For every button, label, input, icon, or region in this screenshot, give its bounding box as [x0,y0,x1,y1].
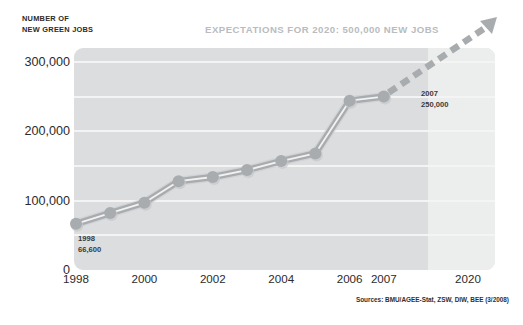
data-point-marker [104,207,116,219]
data-label-1998: 1998 66,600 [78,233,101,255]
data-point-marker [378,91,390,103]
series-line [76,97,384,224]
data-point-marker [241,164,253,176]
data-label-2007: 2007 250,000 [421,88,448,110]
data-point-marker [309,147,321,159]
data-point-marker [207,171,219,183]
series-layer [0,0,523,325]
chart-container: NUMBER OF NEW GREEN JOBS EXPECTATIONS FO… [0,0,523,325]
data-label-1998-value: 66,600 [78,244,101,255]
data-label-2007-value: 250,000 [421,99,448,110]
data-label-2007-year: 2007 [421,88,448,99]
data-point-marker [275,155,287,167]
projection-arrow-line [389,26,488,93]
sources-note: Sources: BMU/AGEE-Stat, ZSW, DIW, BEE (3… [356,296,509,303]
data-label-1998-year: 1998 [78,233,101,244]
data-point-marker [173,175,185,187]
data-point-marker [138,197,150,209]
data-point-marker [70,218,82,230]
data-point-marker [344,95,356,107]
